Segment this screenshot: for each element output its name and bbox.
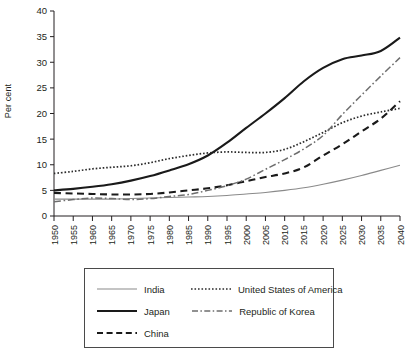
- x-tick-label: 2035: [376, 225, 386, 245]
- x-tick-label: 1995: [223, 225, 233, 245]
- series-lines: [54, 38, 400, 202]
- x-tick-label: 2000: [242, 225, 252, 245]
- legend-row: IndiaUnited States of America: [85, 278, 333, 300]
- x-tick-label: 1975: [146, 225, 156, 245]
- y-tick-label: 20: [36, 108, 47, 119]
- x-tick-label: 1980: [165, 225, 175, 245]
- legend-item-japan: Japan: [85, 306, 192, 317]
- y-tick-label: 30: [36, 57, 47, 68]
- legend-item-india: India: [85, 284, 191, 295]
- legend-swatch-icon: [191, 284, 231, 294]
- line-chart: Per cent 0510152025303540 19501955196019…: [0, 0, 415, 359]
- legend-item-republic-of-korea: Republic of Korea: [192, 306, 333, 317]
- legend-swatch-icon: [192, 306, 232, 316]
- series-line-china: [54, 101, 400, 194]
- legend-swatch-icon: [97, 284, 137, 294]
- legend-swatch-icon: [97, 328, 137, 338]
- x-axis-ticks: 1950195519601965197019751980198519901995…: [50, 216, 406, 245]
- legend-label: United States of America: [238, 284, 343, 295]
- legend-label: China: [144, 328, 169, 339]
- y-tick-label: 25: [36, 82, 47, 93]
- series-line-republic-of-korea: [54, 58, 400, 202]
- legend-swatch-icon: [97, 306, 137, 316]
- y-tick-label: 10: [36, 159, 47, 170]
- legend-row: China: [85, 322, 333, 344]
- series-line-japan: [54, 38, 400, 191]
- x-tick-label: 1960: [88, 225, 98, 245]
- legend-label: Republic of Korea: [239, 306, 315, 317]
- plot-area: Per cent 0510152025303540 19501955196019…: [0, 0, 415, 250]
- x-tick-label: 1965: [107, 225, 117, 245]
- x-tick-label: 2030: [357, 225, 367, 245]
- y-tick-label: 35: [36, 31, 47, 42]
- y-tick-label: 5: [42, 185, 47, 196]
- x-tick-label: 2020: [319, 225, 329, 245]
- legend-row: JapanRepublic of Korea: [85, 300, 333, 322]
- legend-label: Japan: [144, 306, 170, 317]
- legend-item-united-states-of-america: United States of America: [191, 284, 333, 295]
- y-tick-label: 40: [36, 5, 47, 16]
- y-axis-label: Per cent: [3, 71, 13, 131]
- x-tick-label: 2015: [299, 225, 309, 245]
- x-tick-label: 1955: [69, 225, 79, 245]
- x-tick-label: 2010: [280, 225, 290, 245]
- x-tick-label: 1970: [126, 225, 136, 245]
- y-axis-ticks: 0510152025303540: [36, 5, 54, 221]
- plot-svg: 0510152025303540 19501955196019651970197…: [0, 0, 415, 250]
- legend-item-china: China: [85, 328, 192, 339]
- y-tick-label: 15: [36, 134, 47, 145]
- x-tick-label: 2005: [261, 225, 271, 245]
- chart-legend: IndiaUnited States of AmericaJapanRepubl…: [84, 268, 334, 348]
- x-tick-label: 2040: [396, 225, 406, 245]
- y-tick-label: 0: [42, 210, 47, 221]
- x-tick-label: 1950: [50, 225, 60, 245]
- x-tick-label: 1990: [203, 225, 213, 245]
- legend-label: India: [144, 284, 165, 295]
- x-tick-label: 2025: [338, 225, 348, 245]
- x-tick-label: 1985: [184, 225, 194, 245]
